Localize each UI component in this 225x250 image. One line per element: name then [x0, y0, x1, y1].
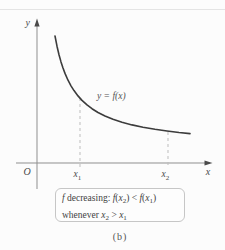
subfigure-label: (b) [113, 231, 128, 242]
caption-box: f decreasing: f(x2) < f(x1) whenever x2 … [55, 188, 185, 222]
caption-text-part: ) [153, 193, 156, 203]
caption-line-2: whenever x2 > x1 [62, 208, 184, 225]
y-axis-label: y [25, 17, 31, 28]
curve-label: y = f(x) [96, 91, 126, 102]
function-curve [55, 36, 190, 134]
origin-label: O [23, 166, 30, 177]
x-axis-label: x [205, 166, 211, 177]
tick-label-x1-sub: 1 [78, 174, 82, 182]
caption-text-part: whenever [62, 210, 101, 220]
x-axis-arrowhead [205, 160, 213, 165]
caption-text-part: decreasing: [65, 193, 113, 203]
caption-text-part: 1 [123, 214, 127, 222]
tick-label-x2-sub: 2 [166, 174, 170, 182]
caption-text-part: < [129, 193, 139, 203]
y-axis-arrowhead [34, 19, 39, 27]
tick-label-x1: x1 [73, 169, 82, 182]
figure-canvas: y x O y = f(x) x1 x2 f decreasing: f(x2)… [0, 0, 225, 250]
tick-label-x2: x2 [161, 169, 170, 182]
subfigure-label-wrap: (b) [55, 226, 185, 244]
caption-line-1: f decreasing: f(x2) < f(x1) [62, 191, 184, 208]
caption-text-part: > [109, 210, 119, 220]
